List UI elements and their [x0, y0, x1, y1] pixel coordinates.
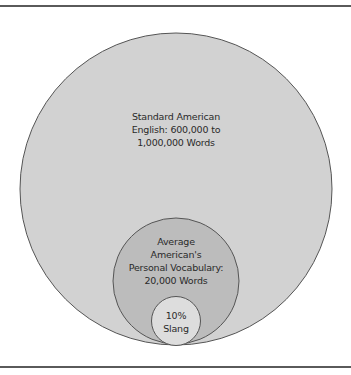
- label-line: Average: [106, 235, 246, 248]
- personal-vocabulary-label: Average American's Personal Vocabulary: …: [106, 235, 246, 287]
- label-line: Standard American: [106, 110, 246, 123]
- label-line: Slang: [146, 322, 206, 335]
- label-line: Personal Vocabulary:: [106, 261, 246, 274]
- label-line: English: 600,000 to: [106, 123, 246, 136]
- standard-english-label: Standard American English: 600,000 to 1,…: [106, 110, 246, 149]
- bottom-border-rule: [0, 366, 351, 368]
- label-line: 10%: [146, 309, 206, 322]
- label-line: 20,000 Words: [106, 274, 246, 287]
- label-line: American's: [106, 248, 246, 261]
- slang-label: 10% Slang: [146, 309, 206, 335]
- label-line: 1,000,000 Words: [106, 136, 246, 149]
